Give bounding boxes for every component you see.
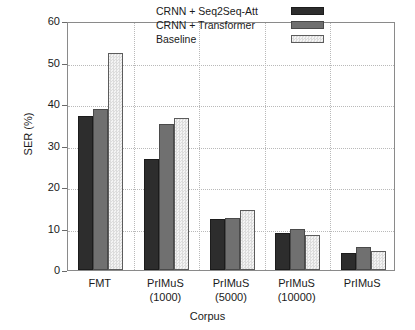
bar (78, 116, 93, 270)
bar (93, 109, 108, 270)
bar-chart: SER (%) 0102030405060 FMTPrIMuS(1000)PrI… (0, 0, 415, 330)
y-tick-label: 40 (18, 98, 60, 110)
legend-label: Baseline (156, 32, 196, 46)
bar (159, 124, 174, 270)
x-tick-label: PrIMuS(1000) (133, 276, 199, 304)
bar (225, 218, 240, 270)
legend-item: Baseline (156, 32, 324, 46)
x-tick-line1: PrIMuS (278, 277, 315, 289)
bar-group (144, 23, 189, 270)
bar (210, 219, 225, 270)
legend-item: CRNN + Transformer (156, 18, 324, 32)
x-tick-line2: (5000) (198, 290, 264, 304)
x-tick-line1: PrIMuS (213, 277, 250, 289)
bar (356, 247, 371, 270)
bar (275, 233, 290, 270)
bar (174, 118, 189, 270)
bar (305, 235, 320, 270)
x-tick-line1: FMT (88, 277, 111, 289)
bar-group (341, 23, 386, 270)
bar-group (275, 23, 320, 270)
legend-label: CRNN + Seq2Seq-Att (156, 4, 258, 18)
gridline-vertical (134, 23, 135, 270)
bar (371, 251, 386, 271)
bar (144, 159, 159, 270)
x-tick-label: PrIMuS (329, 276, 395, 290)
y-tick-mark (62, 271, 67, 272)
bar-group (78, 23, 123, 270)
x-axis-title: Corpus (0, 310, 415, 322)
x-tick-label: PrIMuS(10000) (264, 276, 330, 304)
x-tick-line1: PrIMuS (147, 277, 184, 289)
bar (341, 253, 356, 270)
legend-swatch-baseline (291, 35, 324, 43)
y-tick-label: 0 (18, 264, 60, 276)
y-tick-label: 60 (18, 15, 60, 27)
y-tick-label: 20 (18, 181, 60, 193)
x-tick-label: FMT (67, 276, 133, 290)
y-tick-label: 30 (18, 140, 60, 152)
bar (108, 53, 123, 270)
bar (290, 229, 305, 271)
gridline-vertical (265, 23, 266, 270)
gridline-vertical (199, 23, 200, 270)
legend-label: CRNN + Transformer (156, 18, 255, 32)
legend-swatch-transformer (291, 21, 324, 29)
gridline-vertical (330, 23, 331, 270)
y-tick-label: 10 (18, 223, 60, 235)
x-tick-line1: PrIMuS (344, 277, 381, 289)
plot-area (67, 22, 395, 271)
legend: CRNN + Seq2Seq-Att CRNN + Transformer Ba… (156, 4, 324, 46)
x-tick-label: PrIMuS(5000) (198, 276, 264, 304)
legend-swatch-seq2seq (291, 7, 324, 15)
x-tick-line2: (1000) (133, 290, 199, 304)
y-tick-label: 50 (18, 57, 60, 69)
x-tick-line2: (10000) (264, 290, 330, 304)
legend-item: CRNN + Seq2Seq-Att (156, 4, 324, 18)
bar-group (210, 23, 255, 270)
bar (240, 210, 255, 270)
